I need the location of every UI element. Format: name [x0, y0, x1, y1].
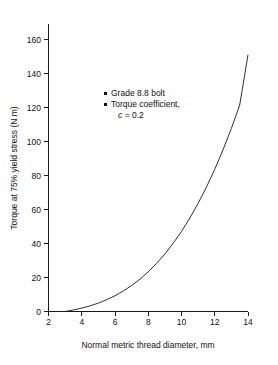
legend-item-coefficient-label: Torque coefficient, [111, 99, 180, 110]
legend-item-grade-label: Grade 8.8 bolt [111, 88, 165, 99]
x-tick-label: 2 [46, 317, 51, 327]
y-axis-title: Torque at 75% yield stress (N m) [9, 106, 19, 229]
bullet-icon [104, 103, 107, 106]
y-tick-label: 120 [27, 103, 41, 113]
x-axis-ticks [49, 312, 249, 317]
axes-group [49, 24, 249, 312]
y-tick-label: 140 [27, 69, 41, 79]
x-tick-label: 8 [146, 317, 151, 327]
y-tick-label: 20 [32, 273, 42, 283]
x-tick-label: 10 [177, 317, 187, 327]
legend-coefficient-value: c = 0.2 [118, 110, 234, 121]
x-tick-label: 6 [113, 317, 118, 327]
y-tick-label: 160 [27, 35, 41, 45]
coefficient-symbol: c [118, 110, 122, 120]
x-tick-label: 4 [79, 317, 84, 327]
y-tick-label: 100 [27, 137, 41, 147]
y-tick-label: 40 [32, 239, 42, 249]
legend-item-coefficient: Torque coefficient, [104, 99, 234, 110]
y-tick-label: 80 [32, 171, 42, 181]
chart-figure: 0 20 40 60 80 100 120 140 160 2 4 6 8 10… [0, 0, 278, 365]
x-axis-title: Normal metric thread diameter, mm [81, 340, 214, 350]
y-tick-label: 60 [32, 205, 42, 215]
x-tick-label: 12 [210, 317, 220, 327]
bullet-icon [104, 92, 107, 95]
coefficient-value: = 0.2 [125, 110, 144, 120]
torque-vs-diameter-line-chart: 0 20 40 60 80 100 120 140 160 2 4 6 8 10… [0, 0, 278, 365]
y-axis-ticks [44, 40, 49, 312]
x-tick-label: 14 [243, 317, 253, 327]
chart-legend: Grade 8.8 bolt Torque coefficient, c = 0… [104, 88, 234, 121]
x-axis-tick-labels: 2 4 6 8 10 12 14 [46, 317, 253, 327]
y-tick-label: 0 [36, 307, 41, 317]
y-axis-tick-labels: 0 20 40 60 80 100 120 140 160 [27, 35, 41, 317]
legend-item-grade: Grade 8.8 bolt [104, 88, 234, 99]
